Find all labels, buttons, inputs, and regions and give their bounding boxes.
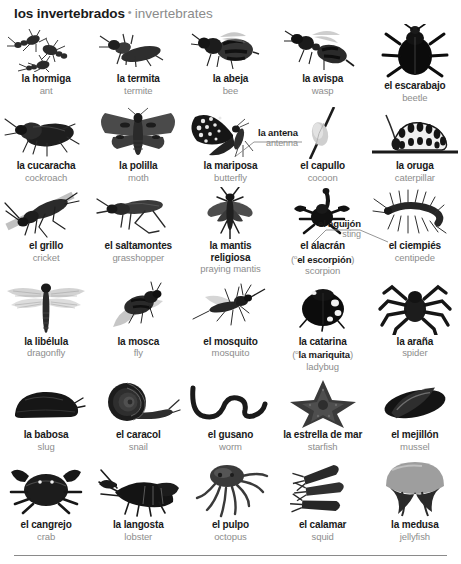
callout-spanish: el aguijón [318, 218, 361, 229]
entry-labels: la polilla moth [119, 159, 158, 183]
entry-labels: el mejillón mussel [391, 428, 438, 452]
english-term: starfish [283, 441, 362, 453]
entry-crab: el cangrejo crab [0, 458, 92, 542]
entry-termite: la termita termite [92, 24, 184, 103]
grid-row: la babosa slug [0, 378, 461, 452]
spanish-term: el mejillón [391, 429, 438, 441]
spanish-term: la abeja [213, 73, 249, 85]
spanish-term: el mosquito [203, 336, 257, 348]
cockroach-photo [0, 107, 92, 159]
spanish-term: la araña [397, 336, 434, 348]
alternate-spanish-term: (ola mariquita) [292, 347, 353, 361]
english-term: ladybug [292, 361, 353, 373]
entry-moth: la polilla moth [92, 107, 184, 183]
entry-mosquito: el mosquito mosquito [184, 279, 276, 373]
entry-labels: el capullo cocoon [300, 159, 345, 183]
ladybug-photo [277, 279, 369, 335]
spider-photo [369, 279, 461, 335]
english-term: dragonfly [24, 347, 68, 359]
jellyfish-photo [369, 458, 461, 518]
english-term: slug [24, 441, 69, 453]
alt-term-text: la mariquita [298, 349, 350, 360]
ant-photo [0, 24, 92, 72]
entry-labels: el grillo cricket [29, 239, 63, 263]
english-term: bee [213, 85, 249, 97]
entry-labels: el gusano worm [208, 428, 253, 452]
spanish-term: la oruga [395, 160, 435, 172]
english-term: mosquito [203, 347, 257, 359]
octopus-photo [184, 458, 276, 518]
english-term: fly [117, 347, 159, 359]
mussel-photo [369, 378, 461, 428]
page-title: los invertebrados•invertebrates [0, 0, 461, 24]
english-term: caterpillar [395, 172, 435, 184]
entry-worm: el gusano worm [184, 378, 276, 452]
alternate-spanish-term: (oel escorpión) [291, 252, 354, 266]
bee-photo [184, 24, 276, 72]
cricket-photo [0, 187, 92, 239]
spanish-term: la cucaracha [17, 160, 76, 172]
grid-row: el cangrejo crab [0, 458, 461, 542]
spanish-term: la hormiga [22, 73, 71, 85]
entry-labels: la mosca fly [117, 335, 159, 359]
title-separator-dot: • [125, 6, 135, 18]
grid-row: el grillo cricket [0, 187, 461, 277]
english-term: mussel [391, 441, 438, 453]
english-term: grasshopper [105, 252, 172, 264]
entry-centipede: el ciempiés centipede [369, 187, 461, 277]
spanish-term: la langosta [113, 519, 164, 531]
callout-english: antenna [258, 138, 298, 149]
entry-labels: la termita termite [117, 72, 160, 96]
entry-snail: el caracol snail [92, 378, 184, 452]
entry-bee: la abeja bee [184, 24, 276, 103]
moth-photo [92, 107, 184, 159]
alt-term-text: el escorpión [297, 254, 351, 265]
spanish-term: la catarina [292, 336, 353, 348]
english-term: lobster [113, 531, 164, 543]
spanish-term: el gusano [208, 429, 253, 441]
grid-row: la libélula dragonfly [0, 279, 461, 373]
spanish-term: la medusa [391, 519, 439, 531]
spanish-term: el pulpo [212, 519, 249, 531]
spanish-term: la termita [117, 73, 160, 85]
english-term: spider [397, 347, 434, 359]
english-term: butterfly [204, 172, 258, 184]
english-term: cricket [29, 252, 63, 264]
grid-row: la cucaracha cockroach [0, 107, 461, 183]
spanish-term: la libélula [24, 336, 68, 348]
entry-praying-mantis: la mantis religiosa praying mantis [184, 187, 276, 277]
entry-cockroach: la cucaracha cockroach [0, 107, 92, 183]
english-term: praying mantis [194, 263, 266, 275]
entry-spider: la araña spider [369, 279, 461, 373]
entry-labels: el escarabajo beetle [384, 79, 445, 103]
spanish-term: la babosa [24, 429, 69, 441]
spanish-term: la polilla [119, 160, 158, 172]
spanish-term: el grillo [29, 240, 63, 252]
entry-labels: la mantis religiosa praying mantis [194, 239, 266, 275]
entry-lobster: la langosta lobster [92, 458, 184, 542]
spanish-term: el ciempiés [389, 240, 441, 252]
entry-labels: la cucaracha cockroach [17, 159, 76, 183]
praying-mantis-photo [184, 187, 276, 239]
entry-labels: la abeja bee [213, 72, 249, 96]
english-term: moth [119, 172, 158, 184]
dragonfly-photo [0, 279, 92, 335]
entry-beetle: el escarabajo beetle [369, 24, 461, 103]
slug-photo [0, 378, 92, 428]
english-term: snail [116, 441, 161, 453]
english-term: wasp [302, 85, 343, 97]
callout-spanish: la antena [258, 127, 298, 138]
entry-starfish: la estrella de mar starfish [277, 378, 369, 452]
page-title-spanish: los invertebrados [14, 6, 125, 21]
entry-labels: el cangrejo crab [21, 518, 72, 542]
caterpillar-photo [369, 107, 461, 159]
entry-labels: la avispa wasp [302, 72, 343, 96]
spanish-term: el alacrán [291, 240, 354, 252]
entry-labels: la hormiga ant [22, 72, 71, 96]
entry-labels: el alacrán (oel escorpión) scorpion [291, 239, 354, 277]
spanish-term: el escarabajo [384, 80, 445, 92]
page-title-english: invertebrates [135, 6, 213, 21]
entry-labels: la mariposa butterfly [204, 159, 258, 183]
entry-labels: la libélula dragonfly [24, 335, 68, 359]
english-term: worm [208, 441, 253, 453]
